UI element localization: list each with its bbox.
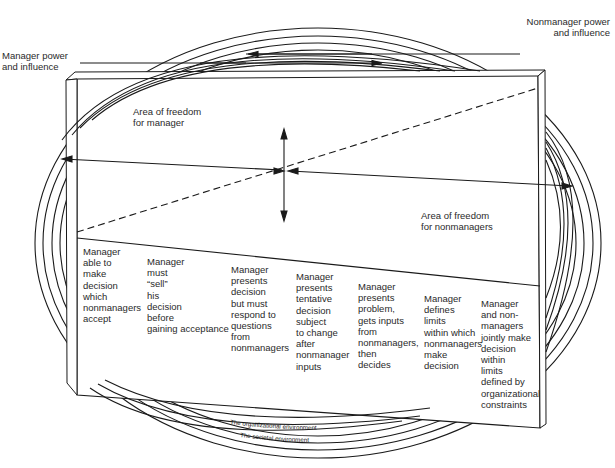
organizational-environment-label: The organizational environment (230, 418, 317, 431)
right-ring-bulge (546, 132, 573, 352)
continuum-item-1: Manager able to make decision which nonm… (83, 246, 141, 324)
area-freedom-nonmanagers-label: Area of freedom for nonmanagers (421, 210, 493, 232)
continuum-item-4: Manager presents tentative decision subj… (296, 271, 349, 372)
area-freedom-manager-label: Area of freedom for manager (133, 106, 201, 128)
continuum-item-5: Manager presents problem, gets inputs fr… (358, 281, 419, 371)
continuum-item-3: Manager presents decision but must respo… (231, 264, 289, 354)
continuum-item-6: Manager defines limits within which nonm… (424, 293, 482, 371)
continuum-item-7: Manager and non- managers jointly make d… (481, 298, 540, 410)
manager-power-label: Manager power and influence (2, 50, 68, 72)
continuum-item-2: Manager must “sell” his decision before … (147, 256, 229, 334)
nonmanager-power-label: Nonmanager power and influence (527, 16, 610, 38)
